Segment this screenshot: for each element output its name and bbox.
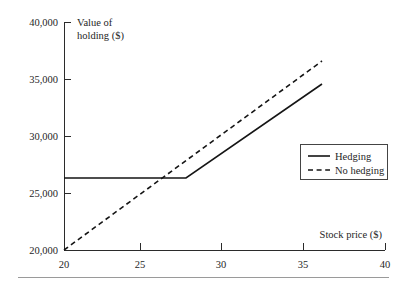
legend-label-hedging: Hedging — [335, 151, 372, 162]
line-chart: 40,000 35,000 30,000 25,000 20,000 20 25… — [0, 0, 407, 284]
x-tick-label-20: 20 — [59, 259, 70, 270]
y-axis-title-line2: holding ($) — [77, 30, 124, 42]
y-tick-label-40000: 40,000 — [29, 17, 58, 28]
legend-label-no-hedging: No hedging — [335, 165, 385, 176]
x-axis-title: Stock price ($) — [320, 229, 383, 241]
x-tick-label-40: 40 — [380, 259, 391, 270]
series-hedging — [64, 84, 322, 178]
y-tick-label-35000: 35,000 — [29, 74, 58, 85]
x-tick-label-35: 35 — [298, 259, 309, 270]
legend: Hedging No hedging — [301, 145, 388, 180]
y-tick-label-30000: 30,000 — [29, 131, 58, 142]
y-tick-label-25000: 25,000 — [29, 188, 58, 199]
x-tick-label-30: 30 — [216, 259, 227, 270]
series-no-hedging — [64, 61, 322, 250]
x-tick-label-25: 25 — [135, 259, 146, 270]
y-tick-label-20000: 20,000 — [29, 245, 58, 256]
y-axis-title-line1: Value of — [77, 17, 113, 28]
figure-container: 40,000 35,000 30,000 25,000 20,000 20 25… — [0, 0, 407, 284]
